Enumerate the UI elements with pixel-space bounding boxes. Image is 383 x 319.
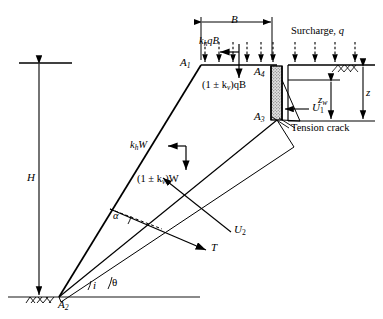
label-dimension-z: z <box>366 87 370 98</box>
label-dimension-H: H <box>27 172 35 183</box>
label-force-T: T <box>211 242 217 253</box>
label-angle-i: i <box>93 280 96 291</box>
label-force-kvqB: (1 ± kv)qB <box>202 80 246 91</box>
tension-crack-column <box>271 66 282 120</box>
force-arrow-khW-kvW <box>168 146 186 170</box>
label-surcharge: Surcharge, q <box>291 26 344 37</box>
label-force-U1: U1 <box>312 102 324 115</box>
label-dimension-B: B <box>231 14 238 25</box>
label-force-khW: khW <box>130 140 147 151</box>
ground-hatch-right <box>332 65 358 72</box>
label-force-khqB: khqB <box>199 36 219 47</box>
slope-face-line <box>59 65 201 297</box>
label-force-U2: U2 <box>234 224 246 237</box>
slope-stability-diagram <box>0 0 383 319</box>
label-point-a4: A4 <box>254 66 265 79</box>
u2-pressure-diagram <box>59 120 294 302</box>
label-angle-theta: θ <box>112 277 117 288</box>
label-point-a3: A3 <box>254 111 265 124</box>
label-tension-crack: Tension crack <box>291 123 349 134</box>
label-force-kvW: (1 ± kv)W <box>137 174 179 185</box>
surcharge-arrows-right <box>295 42 355 62</box>
angle-arc-i <box>88 281 91 290</box>
u1-pressure-triangle <box>282 80 300 121</box>
label-point-a1: A1 <box>180 57 191 70</box>
force-arrow-khqB-kvqB <box>220 44 239 78</box>
label-point-a2: A2 <box>58 299 69 312</box>
label-angle-alpha: α <box>113 211 119 222</box>
